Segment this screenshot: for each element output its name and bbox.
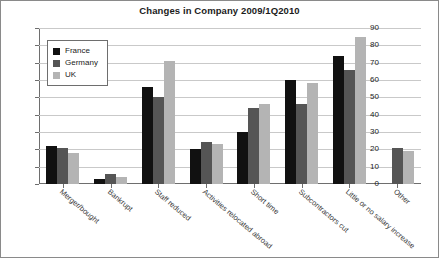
bar-group	[373, 28, 421, 184]
x-axis-label: Short time	[249, 188, 280, 216]
bar-france[interactable]	[190, 149, 201, 184]
x-axis-label: Bankrupt	[106, 188, 134, 213]
bar-germany[interactable]	[344, 70, 355, 184]
x-axis-label-cell: Short time	[230, 186, 278, 258]
legend-swatch-icon	[53, 48, 60, 55]
bar-france[interactable]	[46, 146, 57, 184]
bar-france[interactable]	[285, 80, 296, 184]
y-axis-tick-mark	[35, 184, 39, 185]
bar-germany[interactable]	[105, 174, 116, 184]
bar-germany[interactable]	[248, 108, 259, 184]
x-axis-label-cell: Merger/bought	[39, 186, 87, 258]
bar-uk[interactable]	[212, 144, 223, 184]
x-axis-label-cell: Little or no salary increase	[326, 186, 374, 258]
bar-uk[interactable]	[259, 104, 270, 184]
bar-germany[interactable]	[201, 142, 212, 184]
legend-item-label: UK	[65, 71, 76, 79]
bar-uk[interactable]	[164, 61, 175, 184]
bar-france[interactable]	[142, 87, 153, 184]
legend-item-france[interactable]: France	[53, 45, 98, 57]
bar-france[interactable]	[94, 179, 105, 184]
bar-germany[interactable]	[153, 97, 164, 184]
x-axis-label-cell: Activities relocated abroad	[182, 186, 230, 258]
x-axis-label-cell: Bankrupt	[87, 186, 135, 258]
bar-uk[interactable]	[116, 177, 127, 184]
legend-item-label: France	[65, 47, 90, 55]
bar-uk[interactable]	[355, 37, 366, 184]
x-axis-labels: Merger/boughtBankruptStaff reducedActivi…	[39, 186, 421, 258]
bar-germany[interactable]	[392, 148, 403, 184]
bar-france[interactable]	[237, 132, 248, 184]
bar-germany[interactable]	[57, 148, 68, 184]
bar-france[interactable]	[333, 56, 344, 184]
bar-group	[230, 28, 278, 184]
bar-uk[interactable]	[307, 83, 318, 184]
legend-item-uk[interactable]: UK	[53, 69, 98, 81]
legend-swatch-icon	[53, 72, 60, 79]
chart-legend: FranceGermanyUK	[47, 40, 108, 86]
bar-group	[278, 28, 326, 184]
bar-group	[182, 28, 230, 184]
x-axis-label-cell: Subcontractors cut	[278, 186, 326, 258]
x-axis-label-cell: Other	[373, 186, 421, 258]
bar-uk[interactable]	[403, 151, 414, 184]
legend-item-germany[interactable]: Germany	[53, 57, 98, 69]
bar-germany[interactable]	[296, 104, 307, 184]
x-axis-label: Other	[392, 188, 411, 206]
bar-uk[interactable]	[68, 153, 79, 184]
bar-group	[326, 28, 374, 184]
bar-group	[135, 28, 183, 184]
bar-chart-figure: Changes in Company 2009/1Q2010 010203040…	[0, 0, 439, 258]
legend-item-label: Germany	[65, 59, 98, 67]
legend-swatch-icon	[53, 60, 60, 67]
x-axis-label-cell: Staff reduced	[135, 186, 183, 258]
chart-title: Changes in Company 2009/1Q2010	[1, 5, 438, 16]
